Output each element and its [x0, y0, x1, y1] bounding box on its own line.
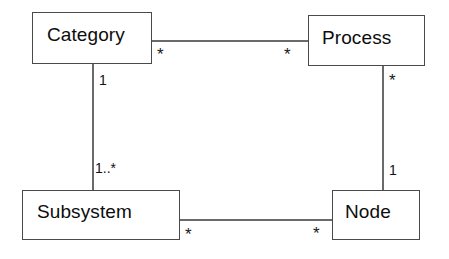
class-box-node[interactable]: Node — [332, 190, 420, 240]
class-box-category[interactable]: Category — [32, 12, 152, 64]
class-box-subsystem[interactable]: Subsystem — [22, 190, 180, 240]
association-line-category-subsystem — [92, 63, 94, 191]
class-name-process: Process — [309, 28, 391, 47]
multiplicity-subsystem-to-category: 1..* — [95, 161, 116, 175]
uml-class-diagram-canvas: Category Process Subsystem Node * * 1 1.… — [0, 0, 449, 259]
association-line-category-process — [152, 40, 309, 42]
class-name-subsystem: Subsystem — [23, 202, 132, 221]
multiplicity-category-to-subsystem: 1 — [99, 73, 107, 87]
multiplicity-node-to-process: 1 — [389, 163, 397, 177]
multiplicity-category-to-process: * — [157, 46, 164, 63]
multiplicity-process-to-category: * — [284, 46, 291, 63]
class-name-category: Category — [33, 25, 125, 44]
association-line-process-node — [382, 65, 384, 191]
multiplicity-node-to-subsystem: * — [313, 225, 320, 242]
class-box-process[interactable]: Process — [308, 15, 425, 66]
multiplicity-subsystem-to-node: * — [185, 226, 192, 243]
class-name-node: Node — [333, 202, 391, 221]
multiplicity-process-to-node: * — [389, 72, 396, 89]
association-line-subsystem-node — [180, 219, 333, 221]
